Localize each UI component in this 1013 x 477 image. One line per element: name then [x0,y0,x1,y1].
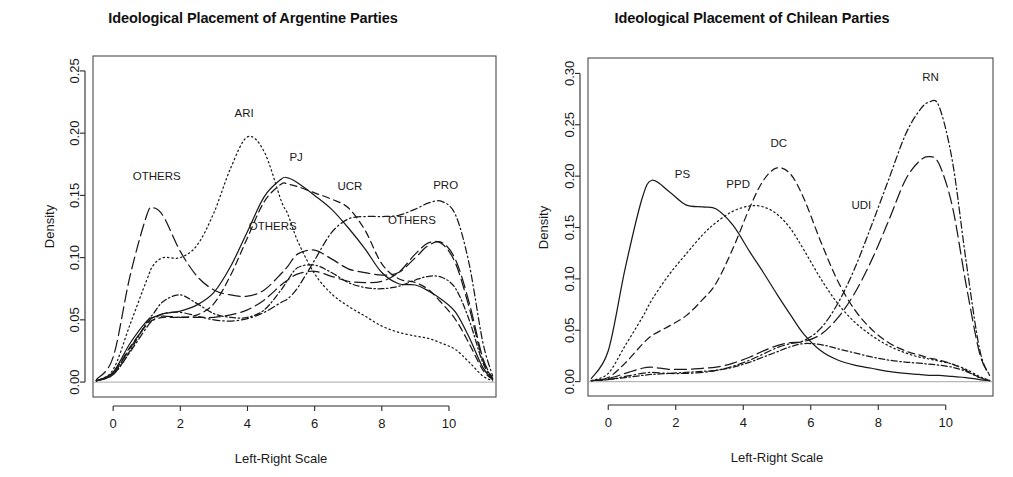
x-tick-label: 2 [672,415,679,430]
curve-label-OTHERS-right: OTHERS [388,214,436,226]
y-tick-label: 0.25 [563,112,578,137]
y-tick-label: 0.20 [68,121,83,146]
chart-svg-chilean: 0.000.050.100.150.200.250.30Density02468… [506,0,1013,477]
curves-group [591,100,989,380]
x-tick-label: 10 [442,416,456,431]
curve-label-RN: RN [922,71,939,83]
y-tick-label: 0.05 [68,307,83,332]
curve-label-OTHERS-mid: OTHERS [249,220,297,232]
density-curve-UCR [96,183,492,381]
panel-chilean: Ideological Placement of Chilean Parties… [506,0,1013,477]
density-plot-argentine: 0.000.050.100.150.200.25Density0246810Le… [0,0,506,477]
curve-label-PS: PS [675,168,691,180]
y-tick-label: 0.10 [68,245,83,270]
curve-label-OTHERS-left: OTHERS [133,170,181,182]
density-curve-PPD [591,206,989,381]
figure-root: Ideological Placement of Argentine Parti… [0,0,1013,477]
y-tick-label: 0.00 [563,369,578,394]
chart-svg-argentine: 0.000.050.100.150.200.25Density0246810Le… [0,0,506,477]
density-curve-PS [591,180,989,380]
x-tick-label: 8 [875,415,882,430]
x-tick-label: 6 [311,416,318,431]
y-tick-label: 0.10 [563,266,578,291]
panel-argentine: Ideological Placement of Argentine Parti… [0,0,506,477]
curve-label-DC: DC [770,137,787,149]
x-tick-label: 0 [605,415,612,430]
density-curve-DC [591,168,989,381]
density-curve-RN [591,100,989,380]
y-tick-label: 0.15 [68,183,83,208]
density-plot-chilean: 0.000.050.100.150.200.250.30Density02468… [506,0,1013,477]
y-axis-title: Density [537,205,552,249]
y-tick-label: 0.20 [563,163,578,188]
x-tick-label: 10 [939,415,953,430]
curve-label-ARI: ARI [235,107,254,119]
y-tick-label: 0.15 [563,215,578,240]
curve-label-UCR: UCR [337,180,362,192]
x-tick-label: 0 [110,416,117,431]
y-tick-label: 0.00 [68,369,83,394]
x-tick-label: 4 [740,415,747,430]
curve-label-PPD: PPD [726,178,750,190]
curve-label-PRO: PRO [433,179,458,191]
x-axis-title: Left-Right Scale [731,450,824,465]
plot-box [588,58,993,396]
density-curve-OTHERS-mid [96,265,492,381]
y-axis-title: Density [42,204,57,248]
y-tick-label: 0.25 [68,58,83,83]
x-axis-title: Left-Right Scale [235,451,328,466]
curve-label-UDI: UDI [851,199,871,211]
x-tick-label: 8 [378,416,385,431]
y-tick-label: 0.05 [563,318,578,343]
x-tick-label: 4 [244,416,251,431]
x-tick-label: 2 [177,416,184,431]
curve-label-PJ: PJ [289,151,302,163]
x-tick-label: 6 [807,415,814,430]
y-tick-label: 0.30 [563,61,578,86]
